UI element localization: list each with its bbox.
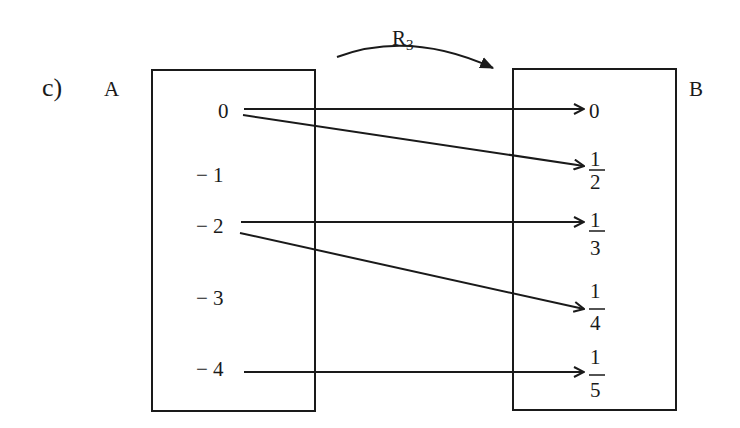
set-a-element: − 4: [196, 357, 224, 381]
svg-text:1: 1: [590, 345, 601, 369]
svg-text:1: 1: [590, 279, 601, 303]
set-b-fraction: 1 5: [589, 345, 605, 402]
set-b-element: 0: [589, 99, 600, 123]
set-a-element: − 3: [196, 286, 224, 310]
set-a-element: − 1: [196, 163, 224, 187]
part-label: c): [42, 73, 62, 102]
set-b-label: B: [689, 77, 703, 101]
set-b-fraction: 1 4: [589, 279, 605, 335]
relation-arrow: R3: [337, 26, 493, 68]
set-b-fraction: 1 2: [589, 147, 605, 194]
svg-text:5: 5: [590, 378, 601, 402]
svg-text:1: 1: [590, 208, 601, 232]
set-a-element: − 2: [196, 214, 224, 238]
set-a-label: A: [104, 77, 120, 101]
mapping-arrows: [240, 109, 584, 372]
svg-text:2: 2: [590, 170, 601, 194]
set-b-fraction: 1 3: [589, 208, 605, 260]
set-b: B 0 1 2 1 3 1 4 1 5: [513, 69, 703, 410]
set-a-element: 0: [218, 99, 229, 123]
mapping-arrow: [240, 233, 584, 309]
svg-text:4: 4: [590, 311, 601, 335]
curved-arrow-icon: [337, 46, 493, 68]
svg-text:1: 1: [590, 147, 601, 171]
mapping-arrow: [243, 115, 584, 166]
arrow-diagram: c) R3 A 0 − 1 − 2 − 3 − 4 B 0 1 2 1 3 1: [0, 0, 740, 428]
svg-text:3: 3: [590, 236, 601, 260]
relation-label: R3: [392, 26, 414, 53]
